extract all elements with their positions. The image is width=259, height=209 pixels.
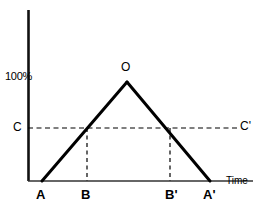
threshold-label-c-prime: C' [240,120,251,132]
curve-falling-limb [127,82,210,181]
peak-label-o: O [121,61,130,73]
x-axis-label-a-prime: A' [203,188,215,201]
x-axis-label-b: B [81,188,90,201]
x-axis-label-a: A [36,188,45,201]
curve-rising-limb [42,82,127,181]
x-axis-title: Time [226,176,248,186]
threshold-label-c: C [13,121,22,133]
x-axis-label-b-prime: B' [165,188,177,201]
diagram-canvas [0,0,259,209]
figure-container: 100% C C' O A B B' A' Time [0,0,259,209]
y-axis-tick-label-100-percent: 100% [5,71,32,82]
